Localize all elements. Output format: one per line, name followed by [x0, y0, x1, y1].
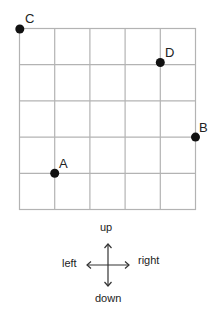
point-c-dot — [15, 25, 24, 34]
grid-diagram — [0, 0, 221, 314]
point-a-label: A — [59, 157, 68, 170]
compass-arrows-icon — [87, 244, 129, 286]
point-c-label: C — [25, 12, 34, 25]
point-b-label: B — [199, 121, 208, 134]
point-a-dot — [50, 169, 59, 178]
point-d-dot — [156, 58, 165, 67]
compass-left-label: left — [62, 258, 77, 269]
compass-right-label: right — [138, 255, 159, 266]
point-d-label: D — [165, 46, 174, 59]
compass-down-label: down — [95, 293, 121, 304]
compass-up-label: up — [100, 222, 112, 233]
